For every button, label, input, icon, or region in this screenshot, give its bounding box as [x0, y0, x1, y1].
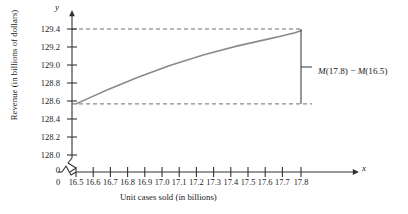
y-tick-label-zero: 0 [18, 165, 60, 175]
y-axis-name: y [55, 2, 59, 12]
y-tick-label-129-0: 129.0 [18, 60, 60, 70]
x-axis-arrowhead-icon [353, 169, 359, 175]
y-tick-label-128-2: 128.2 [18, 132, 60, 142]
annotation-minus: − [348, 66, 358, 76]
y-axis-arrowhead-icon [69, 10, 75, 16]
y-tick-label-129-2: 129.2 [18, 42, 60, 52]
annotation-arg2: (16.5) [365, 66, 387, 76]
x-tick-label-17-8: 17.8 [289, 178, 313, 187]
y-axis-break-zigzag [68, 158, 76, 172]
x-axis-title: Unit cases sold (in billions) [120, 192, 217, 202]
difference-annotation: M(17.8) − M(16.5) [318, 66, 388, 76]
annotation-arg1: (17.8) [326, 66, 348, 76]
y-tick-label-128-0: 128.0 [18, 150, 60, 160]
y-tick-label-128-8: 128.8 [18, 78, 60, 88]
y-tick-label-128-4: 128.4 [18, 114, 60, 124]
revenue-curve [76, 31, 301, 104]
y-tick-label-128-6: 128.6 [18, 96, 60, 106]
y-axis-title: Revenue (in billions of dollars) [9, 0, 19, 140]
x-axis-name: x [362, 163, 366, 173]
x-axis-break-zigzag [62, 166, 76, 175]
y-tick-label-129-4: 129.4 [18, 24, 60, 34]
annotation-m1: M [318, 66, 326, 76]
